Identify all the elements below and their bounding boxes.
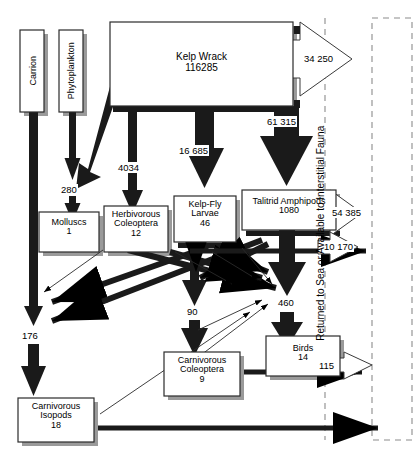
node-label-molluscs: Molluscs 1 xyxy=(39,218,99,237)
node-value-herbivorous-coleoptera: 12 xyxy=(101,229,171,238)
flow-carrion-stem xyxy=(29,112,38,272)
node-label-carrion: Carrion xyxy=(29,30,38,112)
node-label-phytoplankton: Phytoplankton xyxy=(67,30,76,112)
flow-label-wrack-to-herbivorous: 4034 xyxy=(117,162,140,173)
flow-label-phyto-to-molluscs: 280 xyxy=(60,184,78,195)
boundary-caption-text: Returned to Sea or Available to Intersti… xyxy=(315,126,326,341)
boundary-caption: Returned to Sea or Available to Intersti… xyxy=(316,73,327,393)
flow-label-wrack-returned: 34 250 xyxy=(303,53,334,64)
node-name-kelp-fly-larvae: Kelp-Fly Larvae xyxy=(174,200,236,219)
flow-label-wrack-to-talitrid: 61 315 xyxy=(266,116,297,127)
flow-label-to-carnivorous-coleoptera: 90 xyxy=(186,306,199,317)
node-label-carnivorous-coleoptera: Carnivorous Coleoptera 9 xyxy=(162,356,242,384)
node-name-carnivorous-isopods: Carnivorous Isopods xyxy=(16,402,96,421)
flow-label-carrion-to-isopods: 176 xyxy=(21,330,39,341)
node-name-kelp-wrack: Kelp Wrack xyxy=(110,52,293,63)
node-name-carrion: Carrion xyxy=(28,56,38,86)
node-value-kelp-fly-larvae: 46 xyxy=(174,219,236,228)
node-label-kelp-wrack: Kelp Wrack 116285 xyxy=(110,52,293,73)
flow-label-talitrid-returned-2: 10 170 xyxy=(323,241,354,252)
node-name-phytoplankton: Phytoplankton xyxy=(66,42,76,99)
flow-label-to-birds: 460 xyxy=(277,297,295,308)
flow-label-wrack-to-kelpfly: 16 685 xyxy=(178,145,209,156)
food-web-diagram: Carrion Phytoplankton Kelp Wrack 116285 … xyxy=(0,0,415,471)
flow-label-talitrid-returned: 54 385 xyxy=(331,207,362,218)
node-value-molluscs: 1 xyxy=(39,227,99,236)
node-label-herbivorous-coleoptera: Herbivorous Coleoptera 12 xyxy=(101,210,171,238)
node-value-carnivorous-coleoptera: 9 xyxy=(162,375,242,384)
node-label-kelp-fly-larvae: Kelp-Fly Larvae 46 xyxy=(174,200,236,228)
node-value-carnivorous-isopods: 18 xyxy=(16,421,96,430)
node-label-carnivorous-isopods: Carnivorous Isopods 18 xyxy=(16,402,96,430)
node-value-kelp-wrack: 116285 xyxy=(110,63,293,74)
node-name-carnivorous-coleoptera: Carnivorous Coleoptera xyxy=(162,356,242,375)
node-name-herbivorous-coleoptera: Herbivorous Coleoptera xyxy=(101,210,171,229)
